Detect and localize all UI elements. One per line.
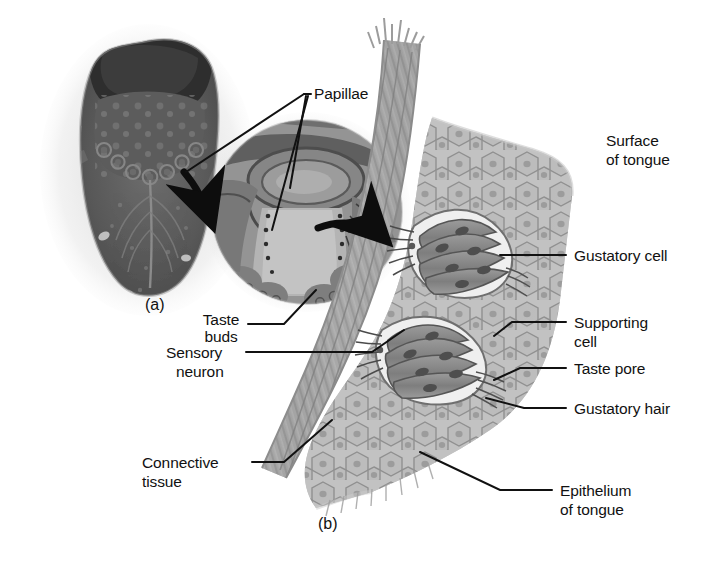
panel-label-a: (a) <box>145 296 165 314</box>
label-surface-of-tongue-line2: of tongue <box>606 151 670 169</box>
taste-pore-upper <box>409 243 415 249</box>
label-supporting-cell-line1: Supporting <box>574 314 648 332</box>
label-connective-tissue-line1: Connective <box>142 454 219 472</box>
label-papillae: Papillae <box>314 85 368 103</box>
label-sensory-neuron-line2: neuron <box>176 363 224 381</box>
label-surface-of-tongue-line1: Surface <box>606 132 659 150</box>
label-sensory-neuron-line1: Sensory <box>166 344 222 362</box>
anatomy-figure: Papillae Taste buds Sensory neuron Surfa… <box>0 0 726 572</box>
label-epithelium-line1: Epithelium <box>560 482 631 500</box>
label-gustatory-hair: Gustatory hair <box>574 400 670 418</box>
label-taste-pore: Taste pore <box>574 360 645 378</box>
label-taste-buds-line2: buds <box>190 328 252 346</box>
label-gustatory-cell: Gustatory cell <box>574 247 667 265</box>
label-taste-buds-line1: Taste <box>190 311 252 329</box>
label-supporting-cell-line2: cell <box>574 333 597 351</box>
label-connective-tissue-line2: tissue <box>142 473 182 491</box>
label-epithelium-line2: of tongue <box>560 501 624 519</box>
panel-label-b: (b) <box>318 515 338 533</box>
